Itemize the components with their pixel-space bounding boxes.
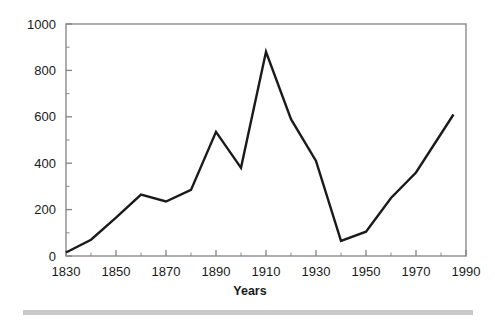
x-tick-label: 1950 [352,264,381,279]
chart-figure: 02004006008001000 1830185018701890191019… [0,0,495,322]
y-tick-label: 800 [34,63,56,78]
line-chart: 02004006008001000 1830185018701890191019… [0,0,495,322]
x-tick-label: 1990 [452,264,481,279]
x-tick-label: 1910 [252,264,281,279]
y-tick-label: 1000 [27,17,56,32]
y-tick-label: 200 [34,202,56,217]
x-tick-label: 1970 [402,264,431,279]
x-axis-title: Years [233,284,266,298]
x-tick-label: 1830 [52,264,81,279]
x-axis-tick-labels: 183018501870189019101930195019701990 [52,264,481,279]
y-tick-label: 400 [34,156,56,171]
footer-divider [23,310,473,315]
y-tick-label: 0 [49,249,56,264]
x-tick-label: 1850 [102,264,131,279]
y-tick-label: 600 [34,109,56,124]
x-tick-label: 1870 [152,264,181,279]
x-tick-label: 1890 [202,264,231,279]
x-tick-label: 1930 [302,264,331,279]
